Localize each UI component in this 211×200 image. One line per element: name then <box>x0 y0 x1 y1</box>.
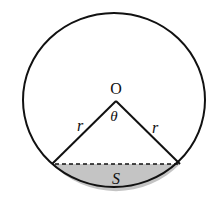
radius-left-label: r <box>77 117 84 134</box>
radius-right <box>116 101 180 164</box>
center-label: O <box>110 80 122 97</box>
radius-left <box>52 101 116 164</box>
segment-area-label: S <box>112 170 120 187</box>
radius-right-label: r <box>152 119 159 136</box>
angle-label: θ <box>110 108 118 124</box>
circle-segment-diagram: O θ r r S <box>0 0 211 200</box>
